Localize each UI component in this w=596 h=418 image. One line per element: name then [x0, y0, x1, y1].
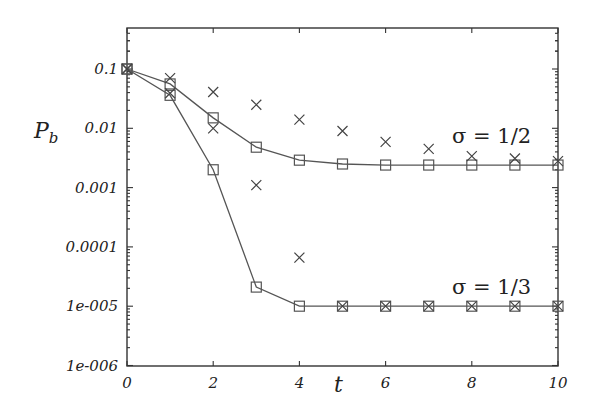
cross-marker: [251, 180, 261, 190]
cross-marker: [381, 137, 391, 147]
y-tick-label: 1e-005: [66, 297, 118, 315]
x-tick-label: 4: [294, 374, 305, 392]
cross-marker: [251, 100, 261, 110]
x-tick-label: 10: [548, 374, 568, 392]
cross-marker: [208, 87, 218, 97]
cross-marker: [208, 123, 218, 133]
y-tick-label: 1e-006: [66, 357, 119, 375]
y-tick-label: 0.1: [94, 60, 118, 78]
cross-marker: [294, 115, 304, 125]
x-tick-label: 6: [381, 374, 391, 392]
cross-marker: [510, 153, 520, 163]
x-tick-label: 8: [467, 374, 477, 392]
x-tick-labels: 0246810: [122, 374, 568, 392]
plot-border: [127, 28, 558, 366]
y-tick-label: 0.0001: [66, 238, 119, 256]
annotation-sigma-third: σ = 1/3: [452, 275, 531, 299]
cross-marker: [165, 73, 175, 83]
y-axis-title: Pb: [33, 118, 58, 147]
y-tick-label: 0.001: [75, 179, 118, 197]
y-tick-labels: 0.10.010.0010.00011e-0051e-006: [66, 60, 119, 375]
axis-ticks: [127, 28, 558, 366]
cross-marker: [338, 126, 348, 136]
chart: 0246810 0.10.010.0010.00011e-0051e-006 P…: [0, 0, 596, 418]
cross-marker: [294, 253, 304, 263]
annotation-sigma-half: σ = 1/2: [452, 124, 531, 148]
series-line: [127, 69, 558, 165]
x-tick-label: 0: [122, 374, 132, 392]
series-1: [122, 64, 563, 166]
y-tick-label: 0.01: [85, 119, 118, 137]
series-line: [127, 69, 558, 306]
x-tick-label: 2: [207, 374, 218, 392]
series-0: [122, 64, 563, 170]
x-axis-title: t: [334, 372, 343, 397]
plot-frame: [127, 28, 558, 366]
cross-marker: [424, 144, 434, 154]
